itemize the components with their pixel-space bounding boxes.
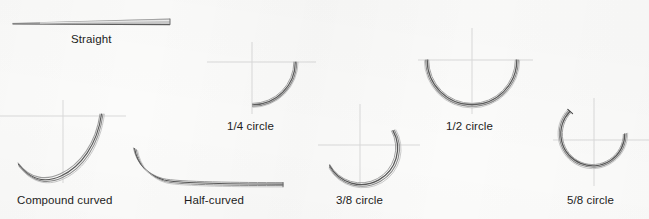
label-straight: Straight <box>71 33 111 45</box>
needle-three-eighths-circle <box>318 104 420 188</box>
straight-needle-lower-edge <box>13 24 171 25</box>
three-eighths-circle-body <box>329 130 401 188</box>
label-quarter-circle: 1/4 circle <box>227 120 274 132</box>
label-compound-curved: Compound curved <box>17 194 112 206</box>
label-three-eighths: 3/8 circle <box>336 194 383 206</box>
needle-five-eighths-circle <box>553 98 649 186</box>
needle-shapes-figure: Straight Compound curved 1/4 circle Half… <box>0 0 649 219</box>
needle-compound-curved <box>0 100 126 183</box>
label-half-curved: Half-curved <box>184 194 244 206</box>
half-curved-body <box>134 148 284 187</box>
needle-straight <box>13 19 171 25</box>
needle-half-curved <box>134 148 284 187</box>
quarter-circle-body <box>253 62 299 107</box>
needle-half-circle <box>418 28 533 114</box>
quarter-circle-axes <box>207 42 316 114</box>
compound-curved-axes <box>0 100 126 183</box>
label-half-circle: 1/2 circle <box>446 120 493 132</box>
label-five-eighths: 5/8 circle <box>567 194 614 206</box>
five-eighths-circle-body <box>558 109 628 168</box>
needle-quarter-circle <box>207 42 316 114</box>
compound-curved-body <box>18 114 104 183</box>
